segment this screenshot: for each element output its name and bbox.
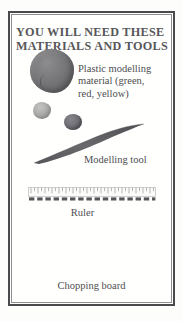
page-background: YOU WILL NEED THESE MATERIALS AND TOOLS [0,0,182,322]
label-ruler: Ruler [10,207,155,219]
label-chopping-board: Chopping board [10,280,173,292]
clay-pebble-icon [33,102,51,119]
materials-panel: YOU WILL NEED THESE MATERIALS AND TOOLS [8,11,175,306]
ruler-icon [28,187,156,202]
label-plastic-modelling-material: Plastic modelling material (green, red, … [78,63,176,100]
page-title: YOU WILL NEED THESE MATERIALS AND TOOLS [16,25,172,53]
clay-blob-icon [30,49,74,93]
label-modelling-tool: Modelling tool [84,154,176,166]
